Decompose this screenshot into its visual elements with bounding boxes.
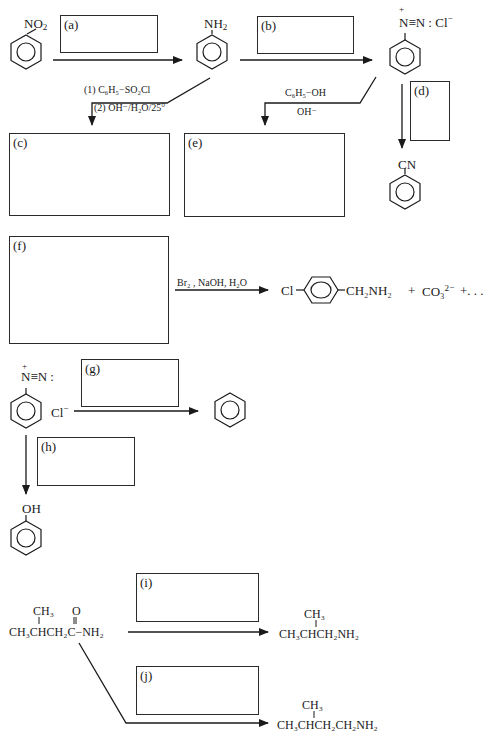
answer-box-j[interactable]: (j) xyxy=(136,666,259,715)
answer-box-g[interactable]: (g) xyxy=(81,359,179,407)
diazonium2-ring xyxy=(11,388,41,428)
answer-box-d[interactable]: (d) xyxy=(410,81,450,141)
other-products-ellipsis: +. . . xyxy=(460,284,484,297)
reagent-c-step2: (2) OH⁻/H₂O/25° xyxy=(94,103,165,113)
amine2-methyl-branch: CH₃ xyxy=(302,699,323,711)
answer-box-c[interactable]: (c) xyxy=(9,133,170,216)
hydroxyl-group: OH xyxy=(22,502,41,515)
amine2-formula: CH₃CHCH₂CH₂NH₂ xyxy=(277,719,378,731)
nitrile-group-label: CN xyxy=(398,158,416,171)
answer-box-h[interactable]: (h) xyxy=(37,437,135,486)
aniline-ring xyxy=(197,30,227,69)
box-label-d: (d) xyxy=(414,83,429,99)
box-label-a: (a) xyxy=(64,17,78,33)
answer-box-b[interactable]: (b) xyxy=(257,16,354,54)
benzene-product-ring xyxy=(215,393,245,427)
box-label-j: (j) xyxy=(140,668,152,684)
reagent-e-phenol: C₆H₅−OH xyxy=(285,88,326,98)
box-label-e: (e) xyxy=(188,135,202,151)
benzonitrile-ring xyxy=(390,168,420,209)
benzylamine-group: CH₂NH₂ xyxy=(346,284,392,297)
box-label-b: (b) xyxy=(261,18,276,34)
nitrobenzene-ring xyxy=(11,29,41,69)
box-label-h: (h) xyxy=(41,439,56,455)
amine1-formula: CH₃CHCH₂NH₂ xyxy=(279,628,359,640)
answer-box-f[interactable]: (f) xyxy=(9,236,169,344)
reagent-f: Br₂ , NaOH, H₂O xyxy=(177,278,247,288)
amino-group-label: NH2 xyxy=(204,17,227,32)
diazonium2-group: N≡N : xyxy=(21,370,54,383)
diazonium-ring xyxy=(390,33,420,74)
nitro-group-label: NO2 xyxy=(24,17,47,32)
phenol-ring xyxy=(11,515,41,555)
amide-formula: CH₃CHCH₂C−NH₂ xyxy=(9,626,104,638)
chloride-ion: Cl− xyxy=(51,405,68,419)
box-label-c: (c) xyxy=(13,135,27,151)
amide-methyl-branch: CH₃ xyxy=(33,605,54,617)
plus-sign-1: + xyxy=(408,284,415,297)
diazonium-plus-sign: + xyxy=(399,5,404,14)
diazonium2-plus-sign: + xyxy=(22,362,27,371)
answer-box-a[interactable]: (a) xyxy=(60,15,158,53)
diazonium-label: N≡N : Cl− xyxy=(399,15,453,29)
box-label-i: (i) xyxy=(140,575,152,591)
chloro-substituent: Cl xyxy=(281,284,293,297)
box-label-g: (g) xyxy=(85,361,100,377)
reagent-e-base: OH⁻ xyxy=(297,107,317,117)
chlorobenzyl-ring xyxy=(296,277,345,303)
answer-box-i[interactable]: (i) xyxy=(136,573,259,622)
amide-carbonyl-oxygen: O xyxy=(72,605,81,617)
box-label-f: (f) xyxy=(13,238,26,254)
reagent-c-step1: (1) C₆H₅−SO₂Cl xyxy=(84,85,150,95)
answer-box-e[interactable]: (e) xyxy=(184,133,345,217)
amine1-methyl-branch: CH₃ xyxy=(304,608,325,620)
arrow-e xyxy=(265,77,376,125)
carbonate-ion: CO₃2− xyxy=(422,284,454,298)
